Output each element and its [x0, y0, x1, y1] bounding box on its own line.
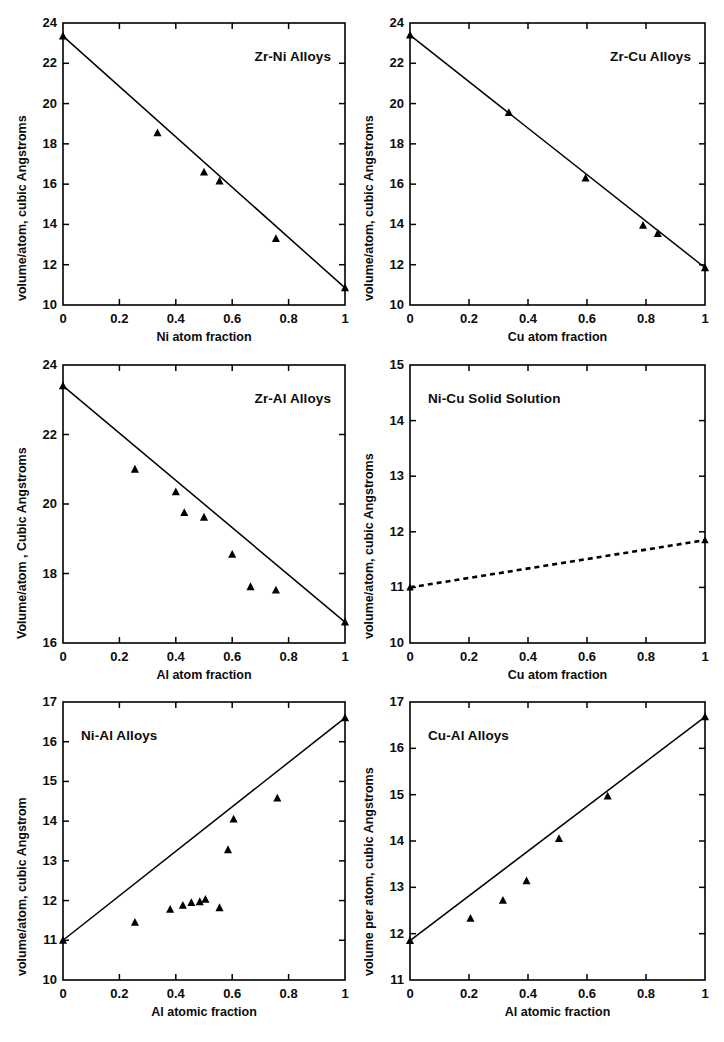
- x-tick-label: 0.8: [273, 649, 305, 664]
- data-point-marker: [272, 234, 280, 242]
- y-tick-label: 24: [27, 357, 57, 372]
- x-tick-label: 0: [47, 311, 79, 326]
- x-tick-label: 0.6: [571, 986, 603, 1001]
- x-tick-label: 0.2: [103, 986, 135, 1001]
- y-axis-label: volume/atom, cubic Angstroms: [15, 115, 29, 301]
- y-tick-label: 22: [374, 55, 404, 70]
- data-point-marker: [273, 794, 281, 802]
- page-bottom-text-fragment: [0, 1028, 724, 1042]
- x-tick-label: 1: [689, 649, 721, 664]
- chart-title-ni-al: Ni-Al Alloys: [81, 728, 157, 743]
- y-tick-label: 10: [27, 297, 57, 312]
- y-tick-label: 10: [27, 972, 57, 987]
- y-tick-label: 18: [374, 136, 404, 151]
- data-point-marker: [466, 914, 474, 922]
- x-tick-label: 0.6: [216, 649, 248, 664]
- x-tick-label: 1: [689, 311, 721, 326]
- y-tick-label: 16: [27, 176, 57, 191]
- data-point-marker: [505, 108, 513, 116]
- y-tick-label: 15: [374, 357, 404, 372]
- y-tick-label: 11: [27, 932, 57, 947]
- y-tick-label: 16: [374, 740, 404, 755]
- y-tick-label: 12: [374, 524, 404, 539]
- chart-title-zr-cu: Zr-Cu Alloys: [610, 49, 691, 64]
- chart-panel-zr-cu: 101214161820222400.20.40.60.81Cu atom fr…: [362, 0, 724, 340]
- x-tick-label: 0.4: [512, 649, 544, 664]
- chart-panel-zr-ni: 101214161820222400.20.40.60.81Ni atom fr…: [0, 0, 362, 340]
- x-tick-label: 1: [329, 986, 361, 1001]
- data-point-marker: [200, 168, 208, 176]
- y-tick-label: 12: [27, 893, 57, 908]
- chart-panel-cu-al: 1112131415161700.20.40.60.81Al atomic fr…: [362, 680, 724, 1042]
- trend-line-zr-al: [63, 386, 345, 622]
- x-tick-label: 0.8: [273, 986, 305, 1001]
- y-axis-label: volume/atom, cubic Angstroms: [362, 115, 376, 301]
- x-tick-label: 0.2: [453, 649, 485, 664]
- data-point-marker: [228, 550, 236, 558]
- y-tick-label: 13: [374, 468, 404, 483]
- data-point-marker: [406, 31, 414, 39]
- y-tick-label: 15: [374, 787, 404, 802]
- data-point-marker: [180, 508, 188, 516]
- x-tick-label: 1: [329, 311, 361, 326]
- trend-line-ni-al: [63, 718, 345, 940]
- y-tick-label: 22: [27, 427, 57, 442]
- axes-frame: [410, 365, 705, 643]
- x-tick-label: 0: [394, 649, 426, 664]
- y-tick-label: 15: [27, 773, 57, 788]
- x-tick-label: 0.4: [512, 986, 544, 1001]
- x-tick-label: 0.2: [453, 986, 485, 1001]
- y-tick-label: 20: [374, 96, 404, 111]
- y-axis-label: volume per atom, cubic Angstroms: [362, 767, 376, 976]
- x-tick-label: 0.4: [160, 986, 192, 1001]
- data-point-marker: [272, 586, 280, 594]
- x-tick-label: 0.4: [160, 649, 192, 664]
- y-axis-label: volume/atom, cubic Angstrom: [15, 797, 29, 976]
- data-point-marker: [555, 834, 563, 842]
- chart-title-cu-al: Cu-Al Alloys: [428, 728, 509, 743]
- y-tick-label: 12: [374, 257, 404, 272]
- y-tick-label: 10: [374, 297, 404, 312]
- data-point-marker: [522, 876, 530, 884]
- data-point-marker: [200, 513, 208, 521]
- data-point-marker: [179, 901, 187, 909]
- y-tick-label: 14: [27, 216, 57, 231]
- data-point-marker: [153, 128, 161, 136]
- y-tick-label: 14: [27, 813, 57, 828]
- x-tick-label: 0: [47, 649, 79, 664]
- y-tick-label: 24: [27, 15, 57, 30]
- data-point-marker: [131, 465, 139, 473]
- y-tick-label: 20: [27, 496, 57, 511]
- x-tick-label: 1: [689, 986, 721, 1001]
- x-tick-label: 0.4: [512, 311, 544, 326]
- x-tick-label: 0.6: [571, 311, 603, 326]
- trend-line-cu-al: [410, 717, 705, 941]
- y-tick-label: 12: [27, 257, 57, 272]
- y-tick-label: 17: [374, 694, 404, 709]
- data-point-marker: [406, 936, 414, 944]
- x-tick-label: 0.4: [160, 311, 192, 326]
- y-tick-label: 13: [27, 853, 57, 868]
- y-tick-label: 18: [27, 566, 57, 581]
- data-point-marker: [172, 487, 180, 495]
- y-axis-label: volume/atom, cubic Angstroms: [362, 453, 376, 639]
- chart-panel-zr-al: 161820222400.20.40.60.81Al atom fraction…: [0, 340, 362, 680]
- x-tick-label: 0.6: [571, 649, 603, 664]
- x-tick-label: 1: [329, 649, 361, 664]
- chart-panel-ni-cu: 10111213141500.20.40.60.81Cu atom fracti…: [362, 340, 724, 680]
- trend-line-ni-cu: [410, 540, 705, 587]
- trend-line-zr-ni: [63, 36, 345, 288]
- data-point-marker: [201, 895, 209, 903]
- x-tick-label: 0.6: [216, 986, 248, 1001]
- x-tick-label: 0.8: [630, 649, 662, 664]
- chart-title-ni-cu: Ni-Cu Solid Solution: [428, 391, 560, 406]
- data-point-marker: [701, 536, 708, 543]
- chart-title-zr-al: Zr-Al Alloys: [255, 391, 331, 406]
- x-tick-label: 0.2: [103, 311, 135, 326]
- y-tick-label: 18: [27, 136, 57, 151]
- y-tick-label: 11: [374, 579, 404, 594]
- data-point-marker: [701, 712, 709, 720]
- data-point-marker: [230, 815, 238, 823]
- axes-frame: [410, 23, 705, 305]
- axes-frame: [63, 702, 345, 980]
